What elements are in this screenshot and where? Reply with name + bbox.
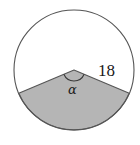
radius-label: 18 xyxy=(98,62,115,79)
geometry-diagram xyxy=(0,0,140,145)
angle-label: α xyxy=(68,83,77,96)
geometry-figure: 18 α xyxy=(0,0,140,145)
